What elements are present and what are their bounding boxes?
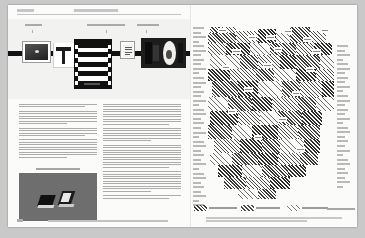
matrix-cell	[276, 33, 290, 43]
running-header-center	[74, 9, 118, 12]
text-line	[103, 176, 181, 177]
text-line	[19, 152, 97, 153]
matrix-cell	[232, 153, 258, 165]
axis-row-label	[193, 136, 199, 138]
matrix-callout-label	[278, 117, 287, 122]
text-line	[103, 106, 181, 107]
callout-text	[313, 51, 319, 53]
striped-panel-caption	[84, 83, 100, 85]
matrix-cell	[280, 55, 296, 69]
text-line	[103, 147, 181, 148]
axis-row-label	[193, 145, 206, 147]
axis-row-label	[337, 54, 350, 56]
matrix-cell	[246, 177, 270, 189]
running-header-left	[17, 9, 34, 12]
axis-row-label	[337, 159, 348, 161]
hatch-swatch-icon	[241, 205, 254, 211]
callout-text	[264, 65, 270, 67]
figure-photograph	[19, 173, 97, 221]
axis-row-label	[337, 145, 345, 147]
axis-row-label	[193, 150, 201, 152]
axis-row-label	[337, 172, 348, 174]
paragraph	[103, 128, 181, 141]
matrix-cell	[208, 43, 226, 55]
axis-row-label	[337, 186, 343, 188]
callout-text	[285, 31, 291, 33]
matrix-callout-label	[266, 35, 275, 40]
text-line	[103, 121, 181, 122]
device-spindle	[166, 50, 172, 59]
text-line	[103, 157, 181, 158]
t-shaped-object	[53, 43, 74, 68]
t-object-stem	[62, 47, 65, 64]
matrix-callout-label	[274, 47, 282, 52]
artifact-timeline-strip	[8, 19, 190, 99]
legend-label	[209, 207, 237, 209]
text-line	[19, 154, 97, 155]
callout-text	[223, 67, 229, 69]
photograph-highlight	[35, 50, 39, 53]
paragraph	[103, 195, 181, 198]
axis-row-label	[193, 77, 204, 79]
framed-photograph	[22, 41, 51, 63]
text-line	[103, 198, 169, 199]
figure-caption	[36, 168, 80, 170]
axis-row-label	[193, 173, 204, 175]
text-line	[19, 139, 97, 140]
matrix-callout-label	[254, 135, 262, 140]
matrix-cell	[260, 111, 278, 125]
axis-row-label	[193, 118, 201, 120]
matrix-cell	[208, 69, 230, 81]
text-line	[19, 116, 97, 117]
matrix-cell	[258, 81, 282, 97]
figure-object-left-base	[38, 205, 55, 208]
text-line	[19, 144, 97, 145]
matrix-cell	[288, 165, 306, 177]
matrix-cell	[240, 139, 262, 153]
paragraph	[103, 171, 181, 192]
matrix-cell	[270, 177, 290, 189]
legend-entry-primary	[194, 205, 237, 211]
matrix-cell	[256, 69, 274, 81]
axis-row-label	[337, 181, 350, 183]
matrix-cell	[316, 69, 334, 81]
callout-text	[255, 137, 261, 139]
matrix-cell	[238, 189, 258, 199]
index-card-line	[125, 52, 132, 53]
paragraph	[103, 104, 181, 125]
matrix-cell	[208, 125, 232, 139]
text-line	[103, 150, 181, 151]
text-line	[103, 114, 181, 115]
matrix-callout-label	[218, 28, 227, 33]
axis-row-label	[337, 59, 343, 61]
matrix-callout-label	[312, 49, 321, 54]
index-card-line	[125, 54, 130, 55]
index-card-line	[125, 47, 132, 48]
axis-row-label	[337, 140, 348, 142]
hatch-swatch-icon	[287, 205, 300, 211]
matrix-callout-label	[228, 109, 236, 114]
matrix-cell	[208, 97, 228, 111]
legend-label	[256, 207, 280, 209]
legend-entry-peripheral	[287, 205, 328, 211]
text-line	[103, 119, 181, 120]
axis-row-label	[337, 90, 343, 92]
matrix-callout-label	[321, 28, 329, 33]
text-line	[103, 140, 151, 141]
matrix-cell	[240, 55, 258, 69]
axis-row-label	[193, 41, 199, 43]
text-line	[103, 171, 181, 172]
callout-text	[322, 30, 328, 32]
axis-row-label	[337, 150, 350, 152]
matrix-callout-label	[303, 37, 312, 42]
axis-row-label	[337, 168, 345, 170]
matrix-cell	[258, 153, 278, 165]
axis-row-label	[193, 91, 204, 93]
timeline-tick	[32, 30, 33, 33]
text-line	[103, 116, 181, 117]
axis-row-label	[337, 131, 350, 133]
text-line	[103, 135, 181, 136]
matrix-cell	[262, 165, 288, 177]
axis-row-label	[193, 50, 206, 52]
matrix-callout-label	[244, 87, 253, 92]
